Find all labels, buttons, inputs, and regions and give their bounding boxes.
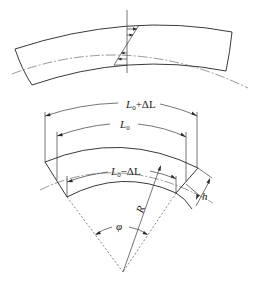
beam-neutral-axis <box>40 173 213 203</box>
top-right-end <box>226 32 232 71</box>
arrow-icon <box>133 27 137 30</box>
h-ext-top <box>198 168 212 178</box>
top-beam-view <box>12 10 248 88</box>
arrow-icon <box>57 133 63 136</box>
arrow-icon <box>207 178 211 184</box>
arrow-icon <box>158 165 161 171</box>
dim-inner-left <box>67 172 108 182</box>
bending-diagram: L0+ΔL L0 L0−ΔL h R <box>0 0 264 286</box>
top-neutral-axis <box>12 55 248 88</box>
radius-left-dashed <box>67 197 123 272</box>
dim-mid-right <box>138 124 186 137</box>
label-angle: φ <box>116 220 122 232</box>
label-inner-length: L0−ΔL <box>110 165 141 179</box>
label-neutral-length: L0 <box>119 118 130 132</box>
beam-outer-extension <box>176 193 192 209</box>
dim-outer-left <box>45 103 118 116</box>
label-thickness: h <box>202 190 208 202</box>
dim-outer-right <box>160 104 197 116</box>
dim-mid-left <box>57 124 110 136</box>
label-outer-length: L0+ΔL <box>125 98 156 112</box>
radius-right-dashed <box>123 193 176 272</box>
arrow-icon <box>45 113 51 116</box>
beam-left-end <box>45 162 67 197</box>
arrow-icon <box>121 52 125 55</box>
top-inner-edge <box>32 64 226 85</box>
beam-inner-edge <box>67 181 176 197</box>
beam-right-end <box>176 168 198 193</box>
top-outer-edge <box>15 25 232 49</box>
arrow-icon <box>181 133 187 138</box>
bottom-beam-view: L0+ΔL L0 L0−ΔL h R <box>40 98 213 272</box>
arrow-icon <box>171 175 176 180</box>
arrow-icon <box>192 112 198 117</box>
arrow-icon <box>67 179 73 182</box>
top-left-end <box>15 49 32 85</box>
label-radius: R <box>133 204 147 216</box>
